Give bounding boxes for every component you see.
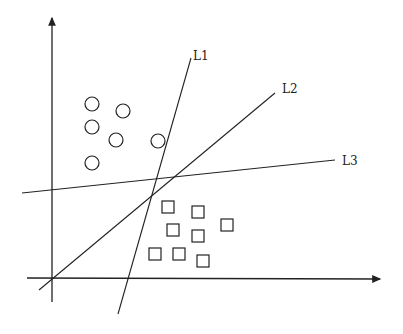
square-point	[192, 230, 204, 242]
circle-point	[109, 133, 123, 147]
square-point	[192, 206, 204, 218]
square-point	[149, 248, 161, 260]
square-point	[162, 201, 174, 213]
line-l3	[22, 160, 335, 193]
circle-point	[116, 104, 130, 118]
line-label-l3: L3	[342, 154, 358, 168]
separating-lines: L1L2L3	[22, 49, 358, 314]
circle-point	[85, 156, 99, 170]
square-point	[167, 224, 179, 236]
square-class-points	[149, 201, 233, 267]
diagram-canvas: L1L2L3	[0, 0, 403, 334]
line-l1	[118, 58, 191, 314]
square-point	[197, 255, 209, 267]
circle-point	[85, 97, 99, 111]
x-axis	[27, 278, 380, 279]
square-point	[173, 248, 185, 260]
square-point	[221, 219, 233, 231]
line-label-l1: L1	[193, 49, 209, 63]
circle-point	[85, 120, 99, 134]
circle-class-points	[85, 97, 165, 170]
line-label-l2: L2	[282, 82, 298, 96]
circle-point	[151, 134, 165, 148]
